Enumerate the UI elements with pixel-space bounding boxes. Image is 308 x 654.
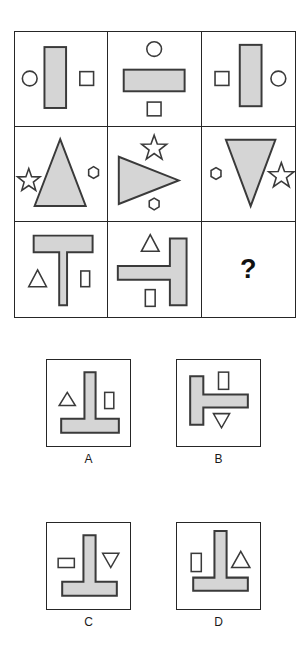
option-c[interactable]: C (46, 522, 131, 629)
cell-shapes-row3-col2 (108, 222, 200, 317)
visual-analogy-puzzle: ? A B (0, 0, 308, 654)
option-a-box[interactable] (46, 359, 131, 447)
matrix-cell-row2-col2[interactable] (108, 127, 201, 222)
cell-shapes-row1-col3 (202, 32, 295, 126)
option-d-shapes (177, 523, 260, 609)
option-c-box[interactable] (46, 522, 131, 610)
matrix-cell-row1-col3[interactable] (202, 32, 295, 127)
matrix-grid: ? (14, 31, 296, 318)
matrix-cell-row3-col1[interactable] (15, 222, 108, 317)
option-b-box[interactable] (176, 359, 261, 447)
question-mark: ? (202, 222, 295, 317)
matrix-cell-row3-col3[interactable]: ? (202, 222, 295, 317)
cell-shapes-row2-col1 (15, 127, 107, 221)
answer-options: A B C (0, 352, 308, 654)
option-d-box[interactable] (176, 522, 261, 610)
option-a-shapes (47, 360, 130, 446)
matrix-cell-row3-col2[interactable] (108, 222, 201, 317)
matrix-cell-row1-col2[interactable] (108, 32, 201, 127)
option-d-label: D (176, 615, 261, 629)
cell-shapes-row1-col2 (108, 32, 200, 126)
matrix-cell-row2-col3[interactable] (202, 127, 295, 222)
cell-shapes-row2-col2 (108, 127, 200, 221)
cell-shapes-row2-col3 (202, 127, 295, 221)
option-d[interactable]: D (176, 522, 261, 629)
option-b-shapes (177, 360, 260, 446)
cell-shapes-row1-col1 (15, 32, 107, 126)
cell-shapes-row3-col1 (15, 222, 107, 317)
option-a[interactable]: A (46, 359, 131, 466)
option-a-label: A (46, 452, 131, 466)
matrix-cell-row1-col1[interactable] (15, 32, 108, 127)
option-c-shapes (47, 523, 130, 609)
matrix-cell-row2-col1[interactable] (15, 127, 108, 222)
option-b-label: B (176, 452, 261, 466)
option-b[interactable]: B (176, 359, 261, 466)
option-c-label: C (46, 615, 131, 629)
